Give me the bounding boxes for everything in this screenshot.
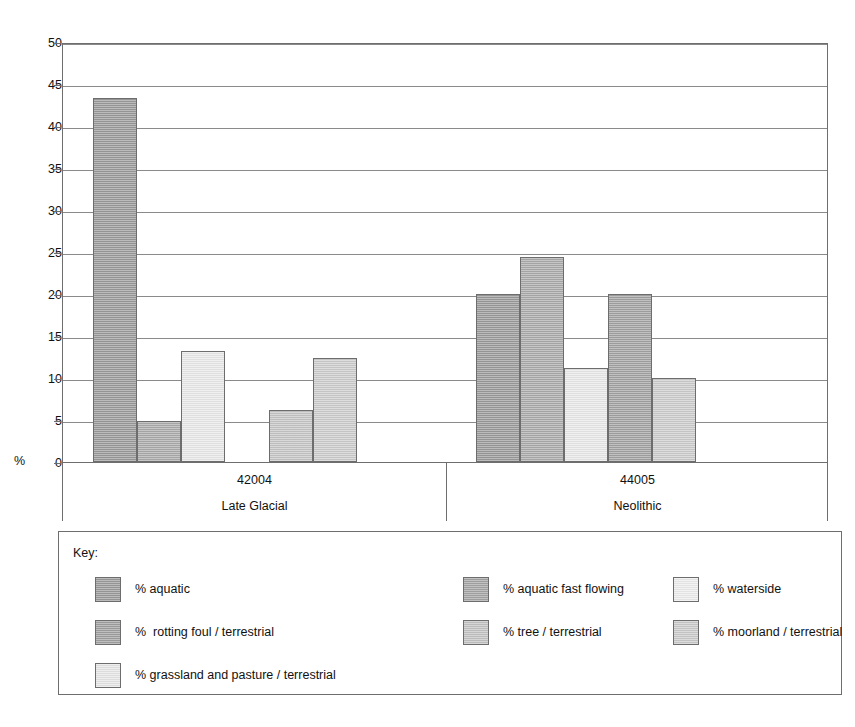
legend-entry: % aquatic — [95, 576, 190, 602]
legend-swatch — [95, 663, 121, 688]
gridline — [63, 44, 827, 45]
bar — [476, 294, 520, 462]
legend-entry: % rotting foul / terrestrial — [95, 619, 274, 645]
legend-swatch — [95, 620, 121, 645]
bar — [93, 98, 137, 462]
gridline — [63, 212, 827, 213]
gridline — [63, 296, 827, 297]
legend-swatch — [673, 577, 699, 602]
y-tick-mark — [54, 463, 61, 464]
category-code-label: 44005 — [446, 473, 829, 487]
y-tick-mark — [54, 337, 61, 338]
category-period-label: Neolithic — [446, 499, 829, 513]
category-code-label: 42004 — [63, 473, 446, 487]
gridline — [63, 338, 827, 339]
gridline — [63, 128, 827, 129]
bar — [564, 368, 608, 462]
gridline — [63, 170, 827, 171]
category-group: 44005Neolithic — [446, 463, 829, 521]
y-tick-mark — [54, 379, 61, 380]
bar — [181, 351, 225, 462]
legend-entry: % moorland / terrestrial — [673, 619, 842, 645]
legend-label: % moorland / terrestrial — [713, 625, 842, 639]
legend-label: % waterside — [713, 582, 781, 596]
legend-label: % aquatic — [135, 582, 190, 596]
plot-area — [62, 43, 828, 463]
y-axis-title: % — [14, 455, 25, 467]
legend-swatch — [673, 620, 699, 645]
bar — [313, 358, 357, 462]
gridline — [63, 380, 827, 381]
y-tick-mark — [54, 295, 61, 296]
chart-figure: 05101520253035404550 % 42004Late Glacial… — [0, 0, 855, 727]
legend: Key: % aquatic% aquatic fast flowing% wa… — [58, 531, 842, 695]
y-tick-mark — [54, 421, 61, 422]
legend-swatch — [95, 577, 121, 602]
legend-label: % tree / terrestrial — [503, 625, 602, 639]
y-tick-mark — [54, 253, 61, 254]
gridline — [63, 86, 827, 87]
bar — [608, 294, 652, 462]
legend-title: Key: — [73, 546, 98, 560]
legend-swatch — [463, 577, 489, 602]
category-group: 42004Late Glacial — [63, 463, 446, 521]
bar — [137, 421, 181, 462]
legend-entry: % grassland and pasture / terrestrial — [95, 662, 336, 688]
y-tick-mark — [54, 43, 61, 44]
bar — [269, 410, 313, 462]
legend-swatch — [463, 620, 489, 645]
bar — [652, 378, 696, 462]
category-axis: 42004Late Glacial44005Neolithic — [62, 463, 828, 521]
y-tick-mark — [54, 127, 61, 128]
y-axis: 05101520253035404550 — [0, 43, 62, 463]
legend-label: % grassland and pasture / terrestrial — [135, 668, 336, 682]
legend-entry: % tree / terrestrial — [463, 619, 602, 645]
gridline — [63, 254, 827, 255]
category-period-label: Late Glacial — [63, 499, 446, 513]
legend-label: % aquatic fast flowing — [503, 582, 624, 596]
legend-entry: % aquatic fast flowing — [463, 576, 624, 602]
legend-label: % rotting foul / terrestrial — [135, 625, 274, 639]
y-tick-mark — [54, 211, 61, 212]
y-tick-mark — [54, 169, 61, 170]
y-tick-mark — [54, 85, 61, 86]
legend-entry: % waterside — [673, 576, 781, 602]
bar — [520, 257, 564, 462]
